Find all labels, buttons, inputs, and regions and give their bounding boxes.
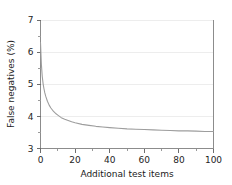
false-negatives-line-chart: 34567 020406080100 False negatives (%) A… <box>0 0 232 185</box>
x-tick-label: 100 <box>205 155 222 165</box>
y-tick-label: 4 <box>28 112 34 122</box>
chart-figure: 34567 020406080100 False negatives (%) A… <box>0 0 232 185</box>
x-tick-label: 20 <box>69 155 81 165</box>
y-tick-label: 6 <box>28 47 34 57</box>
series-line-false-negatives <box>41 42 214 131</box>
x-tick-label: 60 <box>139 155 151 165</box>
y-tick-label: 5 <box>28 79 34 89</box>
y-axis-title: False negatives (%) <box>6 40 16 128</box>
x-axis-title: Additional test items <box>80 169 174 179</box>
y-tick-label: 7 <box>28 15 34 25</box>
x-tick-label: 40 <box>104 155 116 165</box>
plot-gridlines <box>41 20 214 116</box>
x-axis-ticks <box>41 149 214 153</box>
x-tick-label: 0 <box>38 155 44 165</box>
x-axis-tick-labels: 020406080100 <box>38 155 223 165</box>
x-tick-label: 80 <box>173 155 185 165</box>
y-tick-label: 3 <box>28 144 34 154</box>
data-series-group <box>41 42 214 131</box>
y-axis-tick-labels: 34567 <box>28 15 34 154</box>
y-axis-ticks <box>37 20 41 149</box>
